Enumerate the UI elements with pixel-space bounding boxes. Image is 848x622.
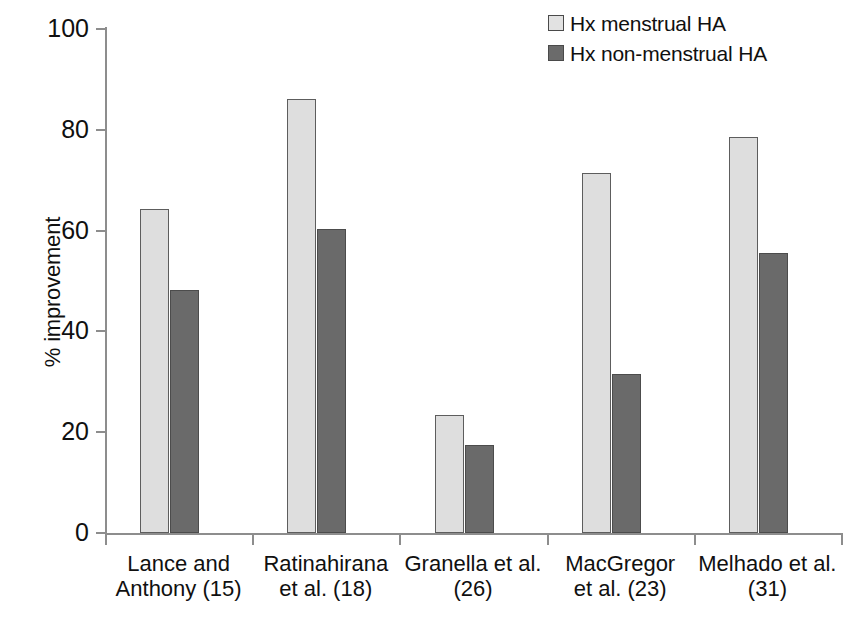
bar-hx-non-menstrual-ha-4: [759, 253, 788, 533]
figure-caption-cutoff: [0, 612, 848, 622]
y-tick-mark: [96, 28, 105, 30]
x-axis-tick-4: [694, 533, 696, 545]
y-tick-mark: [96, 532, 105, 534]
x-axis-label-line: (31): [694, 576, 841, 601]
x-axis-label-line: Granella et al.: [399, 551, 546, 576]
x-axis-label-line: MacGregor: [547, 551, 694, 576]
y-tick-mark: [96, 431, 105, 433]
bar-hx-menstrual-ha-0: [140, 209, 169, 533]
bar-hx-non-menstrual-ha-2: [465, 445, 494, 533]
y-tick-label: 40: [61, 316, 89, 344]
x-axis-label-line: Lance and: [105, 551, 252, 576]
bar-chart-figure: Hx menstrual HA Hx non-menstrual HA % im…: [0, 0, 848, 622]
x-axis-label-line: et al. (18): [252, 576, 399, 601]
x-axis-line: [105, 533, 843, 535]
bar-hx-non-menstrual-ha-1: [317, 229, 346, 533]
x-axis-tick-5: [841, 533, 843, 545]
bar-hx-menstrual-ha-3: [582, 173, 611, 533]
x-axis-label-line: (26): [399, 576, 546, 601]
x-axis-label-3: MacGregoret al. (23): [547, 551, 694, 601]
y-tick-label: 60: [61, 216, 89, 244]
x-axis-tick-1: [252, 533, 254, 545]
bar-hx-menstrual-ha-4: [729, 137, 758, 533]
x-axis-tick-3: [547, 533, 549, 545]
x-axis-tick-0: [105, 533, 107, 545]
y-tick-mark: [96, 330, 105, 332]
x-axis-label-line: Anthony (15): [105, 576, 252, 601]
bar-hx-menstrual-ha-1: [287, 99, 316, 533]
x-axis-label-4: Melhado et al.(31): [694, 551, 841, 601]
y-tick-label: 100: [47, 14, 89, 42]
y-tick-label: 80: [61, 115, 89, 143]
x-axis-label-line: et al. (23): [547, 576, 694, 601]
x-axis-label-1: Ratinahiranaet al. (18): [252, 551, 399, 601]
y-tick-mark: [96, 230, 105, 232]
y-tick-label: 0: [75, 518, 89, 546]
x-axis-label-2: Granella et al.(26): [399, 551, 546, 601]
bar-hx-non-menstrual-ha-3: [612, 374, 641, 533]
y-axis-title: % improvement: [42, 142, 64, 442]
plot-area: 100806040200: [105, 29, 841, 533]
bar-hx-non-menstrual-ha-0: [170, 290, 199, 533]
bar-hx-menstrual-ha-2: [435, 415, 464, 533]
y-tick-mark: [96, 129, 105, 131]
x-axis-label-line: Melhado et al.: [694, 551, 841, 576]
y-tick-label: 20: [61, 417, 89, 445]
x-axis-label-line: Ratinahirana: [252, 551, 399, 576]
x-axis-label-0: Lance andAnthony (15): [105, 551, 252, 601]
x-axis-tick-2: [399, 533, 401, 545]
